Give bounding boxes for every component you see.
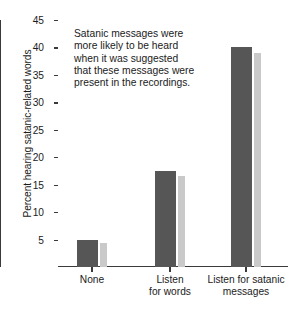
y-axis-tick-mark (54, 240, 58, 241)
y-axis-tick-mark (54, 130, 58, 131)
x-axis-tick-label: Listen for satanicmessages (207, 274, 284, 297)
annotation-line: when it was suggested (74, 53, 214, 65)
x-axis-tick-mark (245, 267, 246, 272)
y-axis-tick-label: 35 (33, 69, 44, 80)
y-axis-tick-label: 20 (33, 152, 44, 163)
x-axis-tick-label-line: for words (149, 286, 191, 298)
bar-dark (77, 240, 98, 267)
x-axis-tick-label-line: Listen for satanic (207, 274, 284, 286)
y-axis-tick-mark (54, 185, 58, 186)
chart-annotation: Satanic messages weremore likely to be h… (74, 28, 214, 89)
y-axis-tick-label: 30 (33, 97, 44, 108)
bar-dark (155, 171, 176, 267)
bar-dark (231, 47, 252, 267)
x-axis-tick-label-line: None (80, 274, 104, 286)
annotation-line: present in the recordings. (74, 77, 214, 89)
bar-light (254, 53, 261, 267)
y-axis-tick-label: 15 (33, 179, 44, 190)
annotation-line: Satanic messages were (74, 28, 214, 40)
y-axis-tick-label: 25 (33, 124, 44, 135)
bar-chart-figure: Percent hearing satanic-related words 51… (0, 0, 300, 314)
y-axis-tick-mark (54, 20, 58, 21)
y-axis-tick-label: 10 (33, 207, 44, 218)
x-axis-tick-mark (91, 267, 92, 272)
y-axis-tick-mark (54, 47, 58, 48)
y-axis-label: Percent hearing satanic-related words (22, 29, 33, 239)
x-axis-tick-label-line: Listen (149, 274, 191, 286)
x-axis-tick-label: Listenfor words (149, 274, 191, 297)
y-axis-tick-label: 45 (33, 15, 44, 26)
annotation-line: more likely to be heard (74, 40, 214, 52)
y-axis-tick-label: 40 (33, 42, 44, 53)
y-axis-tick-mark (54, 212, 58, 213)
x-axis-tick-label: None (80, 274, 104, 286)
bar-light (100, 243, 107, 267)
y-axis-tick-mark (54, 157, 58, 158)
y-axis-line (0, 20, 1, 267)
annotation-line: that these messages were (74, 65, 214, 77)
y-axis-tick-label: 5 (38, 234, 44, 245)
x-axis-tick-mark (169, 267, 170, 272)
y-axis-tick-mark (54, 75, 58, 76)
y-axis-tick-mark (54, 102, 58, 103)
x-axis-tick-label-line: messages (207, 286, 284, 298)
bar-light (178, 176, 185, 267)
